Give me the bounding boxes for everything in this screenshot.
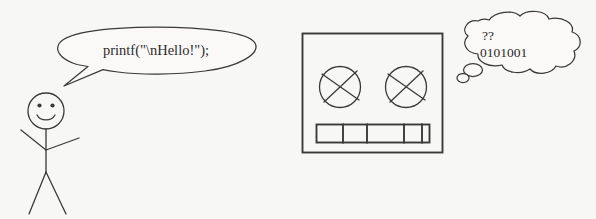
stick-figure [21, 93, 79, 214]
speech-bubble: printf("\nHello!"); [58, 27, 256, 86]
card-slot-bar [317, 125, 430, 143]
computer-box [303, 34, 443, 153]
stick-figure-smile [37, 115, 55, 120]
thought-bubble-dot-small [457, 74, 469, 83]
right-tape-reel [386, 67, 427, 108]
stick-figure-right-leg [46, 172, 66, 214]
stick-figure-left-leg [29, 172, 46, 214]
stick-figure-left-arm [21, 130, 46, 150]
stick-figure-head [28, 93, 64, 129]
thought-bubble: ?? 0101001 [457, 11, 580, 82]
left-tape-reel-spoke-b [322, 74, 359, 100]
stick-figure-right-arm [46, 138, 79, 150]
thought-bubble-line-1: ?? [482, 28, 494, 43]
card-slot-bar-frame [317, 125, 430, 143]
thought-bubble-line-2: 0101001 [480, 45, 527, 60]
left-tape-reel [320, 67, 361, 108]
stick-figure-left-eye [37, 103, 41, 107]
right-tape-reel-spoke-b [388, 74, 425, 100]
stick-figure-right-eye [50, 103, 54, 107]
speech-bubble-code: printf("\nHello!"); [103, 42, 209, 59]
cartoon-scene: printf("\nHello!"); [0, 0, 596, 219]
